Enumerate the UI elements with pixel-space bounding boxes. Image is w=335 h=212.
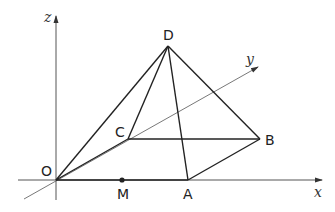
label-A: A xyxy=(183,186,193,202)
label-C: C xyxy=(115,124,125,140)
edge-AD xyxy=(168,46,188,180)
y-axis-label: y xyxy=(245,51,255,67)
label-B: B xyxy=(265,132,275,148)
label-D: D xyxy=(163,27,174,43)
edge-OC xyxy=(56,139,128,180)
edge-OD xyxy=(56,46,168,180)
pyramid-diagram: z y x D C B O M A xyxy=(0,0,335,212)
label-O: O xyxy=(41,163,52,179)
edge-CD xyxy=(128,46,168,139)
point-M xyxy=(119,177,124,182)
label-M: M xyxy=(117,186,129,202)
z-axis-label: z xyxy=(43,9,52,25)
x-axis-label: x xyxy=(314,184,322,200)
edge-AB xyxy=(188,139,260,180)
